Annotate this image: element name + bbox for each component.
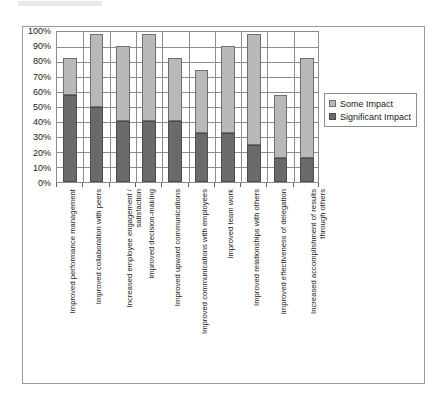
legend-item-label: Some Impact	[340, 99, 393, 109]
bar-segment-some-impact[interactable]	[168, 58, 182, 121]
bar-slot	[83, 32, 109, 182]
x-axis-category-label-line: Improved team work	[227, 189, 236, 379]
y-axis-tick-label: 10%	[33, 164, 51, 173]
bar-segment-significant-impact[interactable]	[247, 145, 261, 183]
bar-segment-significant-impact[interactable]	[168, 121, 182, 183]
stacked-bar[interactable]	[142, 32, 156, 182]
stacked-bar[interactable]	[247, 32, 261, 182]
x-axis-category-label: Increased accomplishment of resultsthrou…	[310, 189, 336, 379]
x-axis-category-label-line: Improved relationships with others	[253, 189, 262, 379]
bar-segment-significant-impact[interactable]	[195, 133, 209, 183]
bar-slot	[110, 32, 136, 182]
stacked-bar[interactable]	[63, 32, 77, 182]
bar-segment-some-impact[interactable]	[300, 58, 314, 159]
bar-segment-some-impact[interactable]	[116, 46, 130, 121]
bar-slot	[162, 32, 188, 182]
bar-segment-significant-impact[interactable]	[274, 158, 288, 182]
bar-segment-some-impact[interactable]	[90, 34, 104, 108]
stacked-bar[interactable]	[90, 32, 104, 182]
x-axis-category-label: Improved team work	[227, 189, 253, 379]
x-axis-tick	[161, 183, 162, 187]
stacked-bar[interactable]	[116, 32, 130, 182]
y-axis-tick-label: 20%	[33, 149, 51, 158]
x-axis-tick	[82, 183, 83, 187]
significant-impact-swatch	[329, 113, 336, 120]
x-axis-category-label-line: through others	[318, 189, 327, 379]
x-axis-tick	[109, 183, 110, 187]
bars-group	[57, 32, 318, 182]
bar-segment-significant-impact[interactable]	[116, 121, 130, 183]
x-axis-tick	[240, 183, 241, 187]
x-axis-category-label: Improved effectiveness of delegation	[280, 189, 306, 379]
x-axis-labels: Improved performance managementImproved …	[56, 189, 319, 379]
y-axis-tick-label: 80%	[33, 57, 51, 66]
x-axis-tick	[266, 183, 267, 187]
y-axis-tick-label: 60%	[33, 88, 51, 97]
x-axis-category-label-line: Improved performance management	[69, 189, 78, 379]
bar-slot	[294, 32, 320, 182]
bar-slot	[241, 32, 267, 182]
chart-figure: 100%90%80%70%60%50%40%30%20%10%0% Improv…	[22, 26, 425, 384]
y-axis-tick-label: 50%	[33, 103, 51, 112]
y-axis-tick-label: 30%	[33, 133, 51, 142]
y-axis-tick-label: 100%	[28, 27, 51, 36]
bar-slot	[215, 32, 241, 182]
stacked-bar[interactable]	[195, 32, 209, 182]
bar-slot	[136, 32, 162, 182]
bar-segment-significant-impact[interactable]	[63, 95, 77, 182]
bar-segment-significant-impact[interactable]	[142, 121, 156, 183]
x-axis-category-label-line: Improved communications with employees	[201, 189, 210, 379]
bar-slot	[57, 32, 83, 182]
y-axis-tick-label: 90%	[33, 42, 51, 51]
bar-segment-some-impact[interactable]	[247, 34, 261, 145]
x-axis-category-label: Improved performance management	[69, 189, 95, 379]
bar-slot	[267, 32, 293, 182]
x-axis-category-label-line: Improved effectiveness of delegation	[280, 189, 289, 379]
stacked-bar[interactable]	[221, 32, 235, 182]
some-impact-swatch	[329, 100, 336, 107]
x-axis-category-label-line: Improved decision-making	[148, 189, 157, 379]
bar-segment-significant-impact[interactable]	[300, 158, 314, 182]
x-axis-category-label-line: Improved upward communications	[174, 189, 183, 379]
x-axis-category-label-line: Improved collaboration with peers	[95, 189, 104, 379]
bar-segment-significant-impact[interactable]	[221, 133, 235, 183]
legend-item[interactable]: Some Impact	[329, 97, 411, 110]
stacked-bar[interactable]	[274, 32, 288, 182]
y-axis-tick-label: 40%	[33, 118, 51, 127]
stacked-bar[interactable]	[168, 32, 182, 182]
x-axis-tick	[188, 183, 189, 187]
x-axis-tick	[318, 183, 319, 187]
y-axis-tick-label: 70%	[33, 73, 51, 82]
x-axis-category-label-line: satisfaction	[134, 189, 143, 379]
scan-artifact	[18, 1, 102, 6]
bar-segment-some-impact[interactable]	[221, 46, 235, 133]
bar-segment-some-impact[interactable]	[195, 70, 209, 133]
x-axis-tick	[214, 183, 215, 187]
bar-segment-significant-impact[interactable]	[90, 107, 104, 182]
x-axis-category-label: Improved collaboration with peers	[95, 189, 121, 379]
x-axis-tick	[56, 183, 57, 187]
x-axis-category-label: Improved relationships with others	[253, 189, 279, 379]
legend-item-label: Significant Impact	[340, 112, 411, 122]
x-axis-tick	[135, 183, 136, 187]
legend-item[interactable]: Significant Impact	[329, 110, 411, 123]
bar-segment-some-impact[interactable]	[142, 34, 156, 121]
x-axis-category-label: Improved upward communications	[174, 189, 200, 379]
y-axis: 100%90%80%70%60%50%40%30%20%10%0%	[23, 31, 54, 183]
chart-legend: Some ImpactSignificant Impact	[324, 93, 417, 127]
x-axis-category-label: Improved communications with employees	[201, 189, 227, 379]
plot-area	[56, 31, 319, 183]
bar-segment-some-impact[interactable]	[63, 58, 77, 96]
x-axis-tick	[293, 183, 294, 187]
chart-plot-wrapper: 100%90%80%70%60%50%40%30%20%10%0% Improv…	[23, 27, 426, 385]
x-axis-ticks	[56, 183, 319, 188]
stacked-bar[interactable]	[300, 32, 314, 182]
x-axis-category-label: Improved decision-making	[148, 189, 174, 379]
bar-slot	[189, 32, 215, 182]
bar-segment-some-impact[interactable]	[274, 95, 288, 158]
y-axis-tick-label: 0%	[38, 179, 51, 188]
